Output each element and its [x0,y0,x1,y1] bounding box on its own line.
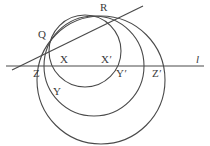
label-line-l: l [196,54,199,65]
geometry-figure: R Q X X′ l Z Y′ Z′ Y [0,0,210,146]
geometry-canvas [0,0,210,146]
label-Z: Z [33,68,40,79]
label-Z-prime: Z′ [152,68,162,79]
label-R: R [100,2,107,13]
label-X-prime: X′ [101,54,112,65]
label-Y: Y [53,86,61,97]
label-Q: Q [38,29,46,40]
circles-group [37,15,165,144]
circle-large [37,16,165,144]
label-X: X [60,54,68,65]
label-Y-prime: Y′ [116,68,127,79]
circle-small [49,15,121,87]
